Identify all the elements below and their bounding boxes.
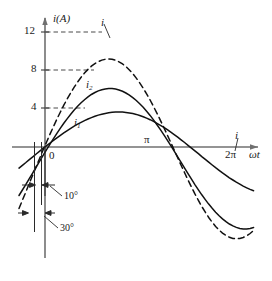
curve-label-i2-sub: 2 <box>89 84 93 92</box>
annotation-10deg: 10° <box>64 191 78 201</box>
y-axis-arrow <box>42 17 47 25</box>
curve-label-i-total-top: i <box>101 17 104 28</box>
axes-group <box>12 17 258 258</box>
curve-label-i1: i1 <box>74 113 81 130</box>
x-tick-label-pi: π <box>144 134 150 145</box>
y-tick-label-12: 12 <box>24 25 35 36</box>
curve-label-i-total-right: i <box>235 130 238 141</box>
measure-10-leader <box>50 186 62 196</box>
origin-label: 0 <box>49 150 55 161</box>
i-total-leader-top <box>104 24 110 38</box>
measure-30-left-arrow <box>23 211 29 216</box>
y-tick-label-4: 4 <box>31 101 37 112</box>
x-tick-label-2pi: 2π <box>225 149 236 160</box>
measure-10-right-arrow <box>42 183 48 188</box>
measure-30-leader <box>44 216 58 228</box>
waveform-figure: i(A) 12 8 4 0 π 2π ωt i1 i2 i i 10° 30° <box>0 0 272 281</box>
curve-label-i1-sub: 1 <box>77 122 81 130</box>
measure-30-right-arrow <box>45 211 51 216</box>
guide-lines <box>46 32 102 108</box>
curve-label-i2: i2 <box>86 75 93 92</box>
y-tick-label-8: 8 <box>31 63 37 74</box>
x-axis-label: ωt <box>249 149 260 160</box>
measure-30deg <box>18 211 58 228</box>
annotation-30deg: 30° <box>60 223 74 233</box>
waveform-svg <box>0 0 272 281</box>
y-axis-label: i(A) <box>53 13 70 24</box>
